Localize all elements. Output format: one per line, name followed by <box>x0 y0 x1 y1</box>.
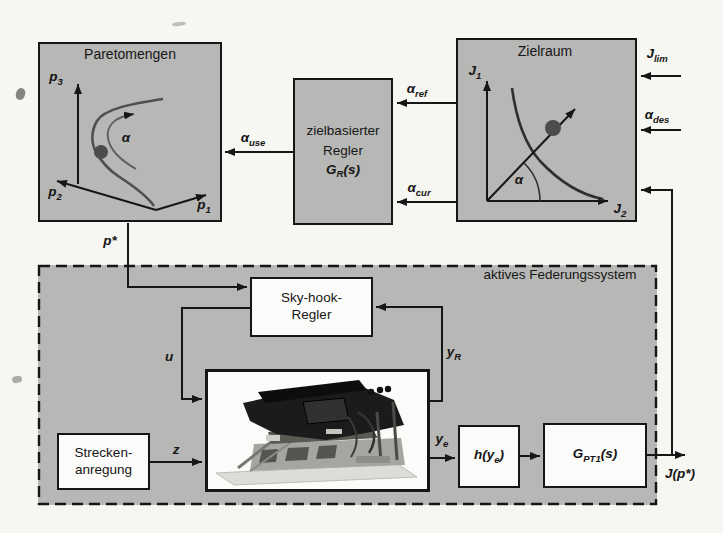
excitation-box: Strecken- anregung <box>57 433 150 490</box>
h-function-label: h(ye) <box>474 447 504 466</box>
pt1-filter-box: GPT1(s) <box>543 423 647 488</box>
signal-y-e: ye <box>436 431 449 449</box>
signal-y-r: yR <box>447 344 461 362</box>
signal-j-lim: Jlim <box>646 46 667 64</box>
p1-axis-label: p1 <box>197 197 211 215</box>
signal-alpha-des: αdes <box>645 107 670 125</box>
scan-smudge <box>11 375 22 384</box>
signal-alpha-use: αuse <box>241 130 266 148</box>
signal-p-star: p* <box>103 233 117 248</box>
active-suspension-title: aktives Federungssystem <box>483 267 636 282</box>
signal-u: u <box>165 349 173 364</box>
test-rig-photo-box <box>205 369 430 492</box>
skyhook-label-line1: Sky-hook- <box>281 290 342 307</box>
skyhook-controller-box: Sky-hook- Regler <box>250 277 373 337</box>
controller-label-line2: Regler <box>307 140 380 160</box>
scan-smudge <box>172 21 186 26</box>
scan-smudge <box>14 87 26 101</box>
j2-axis-label: J2 <box>614 201 627 219</box>
controller-transfer-function: GR(s) <box>307 160 380 181</box>
diagram-canvas: Sky-hook- Regler Strecken- anregung h(ye… <box>0 0 723 533</box>
signal-alpha-cur: αcur <box>407 180 430 198</box>
zielraum-alpha-label: α <box>515 172 523 187</box>
excitation-label-line2: anregung <box>75 462 132 479</box>
pareto-alpha-label: α <box>122 130 130 145</box>
skyhook-label-line2: Regler <box>292 307 332 324</box>
pt1-filter-label: GPT1(s) <box>573 446 617 465</box>
h-function-box: h(ye) <box>458 425 520 488</box>
j1-axis-label: J1 <box>469 63 482 81</box>
controller-label-line1: zielbasierter <box>307 121 380 141</box>
zielraum-title: Zielraum <box>518 43 572 59</box>
paretomengen-title: Paretomengen <box>84 46 176 62</box>
signal-z: z <box>173 442 180 457</box>
zielraum-box <box>456 38 637 222</box>
signal-j-p-star: J(p*) <box>665 466 695 481</box>
p3-axis-label: p3 <box>49 69 63 87</box>
goal-based-controller-label: zielbasierter Regler GR(s) <box>307 121 380 182</box>
p2-axis-label: p2 <box>48 184 62 202</box>
excitation-label-line1: Strecken- <box>75 445 133 462</box>
test-rig-photo <box>208 372 427 489</box>
signal-alpha-ref: αref <box>407 81 428 99</box>
